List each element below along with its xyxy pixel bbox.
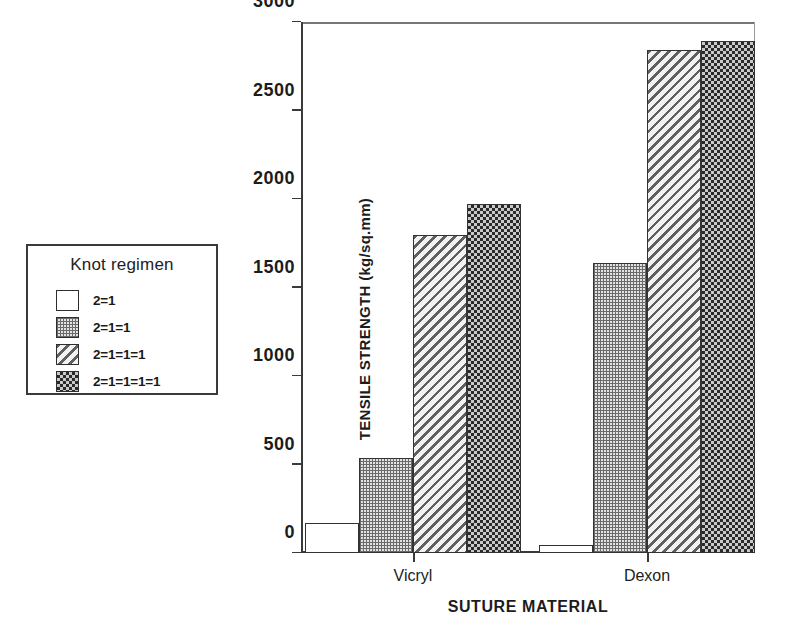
y-axis-tick-label: 2000	[253, 168, 295, 189]
y-axis-line	[301, 22, 303, 553]
legend-item: 2=1	[56, 288, 206, 313]
y-axis-tick	[292, 286, 301, 288]
legend-item: 2=1=1=1	[56, 342, 206, 367]
legend-title: Knot regimen	[28, 255, 216, 275]
bar	[359, 458, 413, 553]
y-axis-tick	[292, 552, 301, 554]
y-axis-tick-label: 3000	[253, 0, 295, 12]
legend-swatch-blank	[56, 290, 79, 311]
legend-item-label: 2=1=1	[93, 320, 130, 335]
legend-swatch-check	[56, 371, 79, 392]
legend-swatch-hatch	[56, 344, 79, 365]
legend-item: 2=1=1	[56, 315, 206, 340]
bar	[467, 204, 521, 553]
legend-item-label: 2=1=1=1	[93, 347, 145, 362]
legend-item-label: 2=1	[93, 293, 115, 308]
y-axis-tick-label: 0	[284, 522, 295, 543]
x-axis-tick	[413, 553, 415, 562]
bar	[647, 50, 701, 553]
y-axis-tick	[292, 375, 301, 377]
chart-legend: Knot regimen 2=12=1=12=1=1=12=1=1=1=1	[26, 244, 218, 395]
x-axis-title: SUTURE MATERIAL	[301, 598, 755, 616]
legend-swatch-grid	[56, 317, 79, 338]
legend-items: 2=12=1=12=1=1=12=1=1=1=1	[56, 288, 206, 396]
y-axis-tick	[292, 21, 301, 23]
x-axis-group-label: Dexon	[624, 567, 670, 585]
y-axis-tick-label: 2500	[253, 79, 295, 100]
legend-item: 2=1=1=1=1	[56, 369, 206, 394]
x-axis-group-label: Vicryl	[394, 567, 433, 585]
x-axis-tick	[647, 553, 649, 562]
bar	[593, 263, 647, 553]
plot-area: 050010001500200025003000 VicrylDexon	[301, 22, 755, 553]
bar	[413, 235, 467, 553]
legend-item-label: 2=1=1=1=1	[93, 374, 160, 389]
bar	[539, 545, 593, 553]
y-axis-tick	[292, 198, 301, 200]
plot-frame-top	[301, 22, 755, 24]
y-axis-tick	[292, 109, 301, 111]
bar	[305, 523, 359, 553]
y-axis-tick-label: 500	[263, 433, 295, 454]
y-axis-tick	[292, 463, 301, 465]
y-axis-tick-label: 1500	[253, 256, 295, 277]
y-axis-tick-label: 1000	[253, 345, 295, 366]
bar	[701, 41, 755, 553]
bar-chart: Knot regimen 2=12=1=12=1=1=12=1=1=1=1 TE…	[0, 0, 803, 637]
